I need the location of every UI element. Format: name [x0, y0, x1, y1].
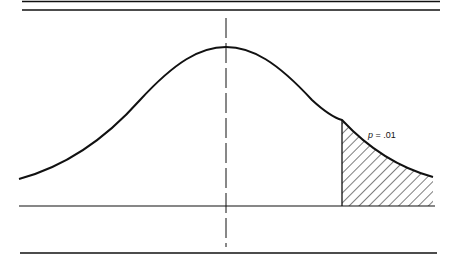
normal-curve-diagram: p = .01	[0, 0, 456, 269]
equals-sign: =	[376, 130, 381, 140]
p-symbol: p	[367, 130, 373, 140]
p-value: .01	[383, 130, 396, 140]
p-value-label: p = .01	[367, 130, 396, 140]
